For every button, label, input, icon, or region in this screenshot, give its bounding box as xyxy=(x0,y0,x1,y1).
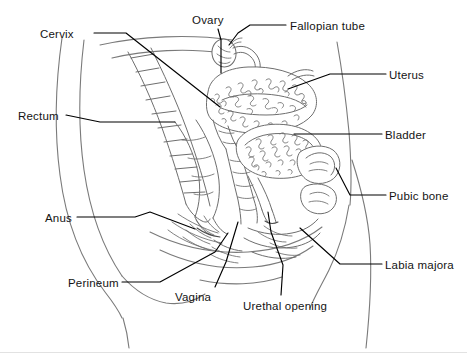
label-fallopian-tube: Fallopian tube xyxy=(290,20,365,32)
label-vagina: Vagina xyxy=(175,291,211,303)
label-uterus: Uterus xyxy=(389,69,424,81)
pubic-bone-organ xyxy=(297,146,340,214)
label-ovary: Ovary xyxy=(192,14,224,26)
rectum-organ xyxy=(175,120,219,218)
labia-majora-organ xyxy=(244,219,320,258)
label-anus: Anus xyxy=(45,212,72,224)
leader-fallopian-tube xyxy=(229,25,286,45)
leader-perineum xyxy=(122,233,228,282)
label-urethal-opening: Urethal opening xyxy=(243,300,327,312)
ovary-organ xyxy=(210,37,238,68)
label-pubic-bone: Pubic bone xyxy=(389,190,449,202)
label-bladder: Bladder xyxy=(385,129,426,141)
anatomy-illustration xyxy=(0,0,467,353)
label-rectum: Rectum xyxy=(18,110,59,122)
label-cervix: Cervix xyxy=(40,28,74,40)
urethra-organ xyxy=(262,210,278,223)
uterus-organ xyxy=(206,67,316,133)
leader-cervix xyxy=(94,33,220,107)
anatomy-diagram: Cervix Ovary Fallopian tube Uterus Rectu… xyxy=(0,0,467,353)
leader-anus xyxy=(77,212,195,229)
label-labia-majora: Labia majora xyxy=(385,259,454,271)
sacrum-vertebrae xyxy=(128,48,210,222)
label-perineum: Perineum xyxy=(68,277,119,289)
